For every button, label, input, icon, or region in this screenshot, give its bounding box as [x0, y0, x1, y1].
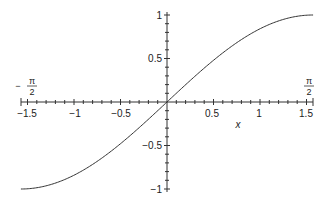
minus-sign: − — [15, 81, 20, 91]
x-tick-label: 1 — [256, 108, 262, 119]
denominator: 2 — [306, 87, 311, 97]
x-tick-label: −1 — [69, 108, 81, 119]
x-tick-label: −1.5 — [17, 108, 37, 119]
y-tick-label: 1 — [156, 10, 162, 21]
denominator: 2 — [29, 87, 34, 97]
x-tick-label: 0.5 — [205, 108, 219, 119]
pi-over-2-label: π 2 — [304, 76, 314, 97]
y-tick-label: 0.5 — [148, 53, 162, 64]
y-tick-label: −1 — [151, 184, 163, 195]
x-tick-label: −0.5 — [111, 108, 131, 119]
minus-pi-over-2-label: − π 2 — [15, 76, 37, 97]
x-axis-title: x — [235, 119, 242, 130]
y-tick-label: −0.5 — [142, 140, 162, 151]
pi-symbol: π — [29, 76, 35, 86]
pi-symbol: π — [306, 76, 312, 86]
x-tick-label: 1.5 — [299, 108, 313, 119]
sine-chart: −1.5 −1 −0.5 0.5 1 1.5 1 0.5 −0.5 −1 x −… — [0, 0, 334, 206]
